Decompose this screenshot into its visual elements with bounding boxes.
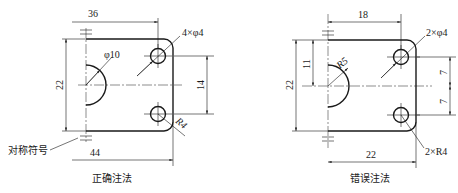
dim-2x-phi4: 2×φ4 xyxy=(426,27,447,38)
left-figure: 36 22 14 44 φ10 4×φ4 R4 对称符号 正确注法 xyxy=(8,8,214,184)
dim-22-right-vertical: 22 xyxy=(284,80,295,90)
dim-22-right-bottom: 22 xyxy=(366,149,376,160)
dim-2x-R4: 2×R4 xyxy=(425,146,447,157)
right-figure: 18 22 11 7 7 22 R5 2×φ4 2×R4 错误注法 xyxy=(284,9,456,184)
dim-11: 11 xyxy=(301,59,312,69)
symmetry-symbol-label: 对称符号 xyxy=(8,144,48,156)
dim-14: 14 xyxy=(195,80,206,90)
dim-4x-phi4: 4×φ4 xyxy=(182,27,203,38)
dim-22-left: 22 xyxy=(54,80,65,90)
dim-7-bottom: 7 xyxy=(438,99,449,104)
caption-correct: 正确注法 xyxy=(92,172,132,184)
caption-wrong: 错误注法 xyxy=(350,172,390,184)
dim-36: 36 xyxy=(88,8,98,19)
dim-44: 44 xyxy=(90,147,100,158)
dim-phi10: φ10 xyxy=(104,49,120,60)
dim-18: 18 xyxy=(358,9,368,20)
dim-7-top: 7 xyxy=(438,70,449,75)
